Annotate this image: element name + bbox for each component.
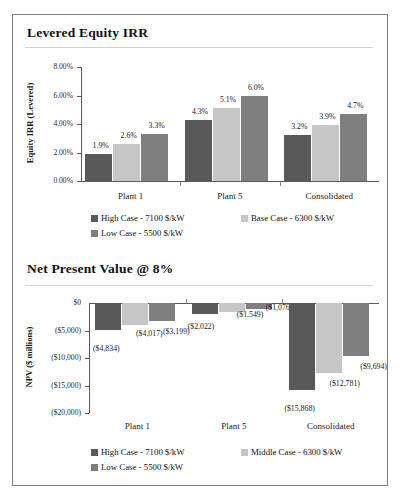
legend-swatch-base-case <box>241 215 248 222</box>
bar-value-label-irr: 3.3% <box>140 121 173 130</box>
legend-label-irr: Base Case - 6300 $/kW <box>251 213 334 223</box>
bar-net-present-value-at-8-percent <box>95 303 121 330</box>
bar-value-label-irr: 4.7% <box>339 101 372 110</box>
clipped-header-text <box>0 0 400 10</box>
legend-label-irr: High Case - 7100 $/kW <box>101 213 185 223</box>
title-divider-npv <box>25 285 373 286</box>
legend-item-npv[interactable]: High Case - 7100 $/kW <box>91 447 185 457</box>
legend-swatch-high-case <box>91 449 98 456</box>
bar-levered-equity-irr <box>113 144 140 181</box>
y-tick-label-npv: ($5,000) <box>13 326 81 335</box>
plot-area-irr: Equity IRR (Levered)0.00%2.00%4.00%6.00%… <box>13 53 387 213</box>
legend-swatch-high-case <box>91 215 98 222</box>
x-tick-mark-npv <box>282 299 283 303</box>
legend-label-irr: Low Case - 5500 $/kW <box>101 228 183 238</box>
legend-label-npv: Middle Case - 6300 $/kW <box>251 447 342 457</box>
chart-panel-net-present-value: Net Present Value @ 8% NPV ($ millions)$… <box>13 255 387 485</box>
bar-net-present-value-at-8-percent <box>289 303 315 390</box>
y-tick-mark-npv <box>85 413 89 414</box>
y-tick-label-irr: 0.00% <box>13 176 73 185</box>
chart-title-npv: Net Present Value @ 8% <box>27 261 173 277</box>
bar-value-label-npv: ($9,694) <box>349 362 399 371</box>
bar-levered-equity-irr <box>312 125 339 181</box>
legend-item-npv[interactable]: Middle Case - 6300 $/kW <box>241 447 342 457</box>
bar-value-label-irr: 6.0% <box>240 83 273 92</box>
chart-legend-npv: High Case - 7100 $/kWMiddle Case - 6300 … <box>13 447 387 487</box>
legend-swatch-middle-case <box>241 449 248 456</box>
y-tick-label-irr: 4.00% <box>13 119 73 128</box>
x-tick-mark-npv <box>186 299 187 303</box>
bar-value-label-npv: ($12,781) <box>320 379 370 388</box>
bar-value-label-npv: ($15,868) <box>275 404 325 413</box>
bar-levered-equity-irr <box>241 96 268 182</box>
bar-value-label-npv: ($2,022) <box>176 322 226 331</box>
bar-value-label-npv: ($4,834) <box>81 344 131 353</box>
x-tick-mark-irr <box>180 182 181 186</box>
category-label-npv: Consolidated <box>282 421 379 431</box>
legend-label-npv: Low Case - 5500 $/kW <box>101 462 183 472</box>
category-label-irr: Plant 1 <box>81 191 180 201</box>
bar-net-present-value-at-8-percent <box>343 303 369 356</box>
bar-levered-equity-irr <box>340 114 367 181</box>
x-axis-line-irr <box>81 181 379 182</box>
figure-frame: Levered Equity IRR Equity IRR (Levered)0… <box>12 14 388 486</box>
y-axis-line-npv <box>89 303 90 413</box>
legend-item-irr[interactable]: Low Case - 5500 $/kW <box>91 228 183 238</box>
chart-panel-levered-equity-irr: Levered Equity IRR Equity IRR (Levered)0… <box>13 15 387 255</box>
bar-levered-equity-irr <box>141 134 168 181</box>
bar-levered-equity-irr <box>185 120 212 181</box>
bar-net-present-value-at-8-percent <box>149 303 175 321</box>
bar-levered-equity-irr <box>284 135 311 181</box>
y-tick-label-npv: ($10,000) <box>13 353 81 362</box>
y-tick-label-irr: 2.00% <box>13 148 73 157</box>
legend-label-npv: High Case - 7100 $/kW <box>101 447 185 457</box>
bar-levered-equity-irr <box>213 108 240 181</box>
y-tick-label-npv: $0 <box>13 298 81 307</box>
legend-item-irr[interactable]: High Case - 7100 $/kW <box>91 213 185 223</box>
bar-net-present-value-at-8-percent <box>122 303 148 325</box>
y-axis-line-irr <box>81 67 82 181</box>
x-tick-mark-irr <box>280 182 281 186</box>
chart-title-irr: Levered Equity IRR <box>27 25 148 41</box>
y-tick-label-npv: ($20,000) <box>13 408 81 417</box>
title-divider-irr <box>25 47 373 48</box>
category-label-irr: Consolidated <box>280 191 379 201</box>
category-label-npv: Plant 1 <box>89 421 186 431</box>
y-tick-label-npv: ($15,000) <box>13 381 81 390</box>
bar-net-present-value-at-8-percent <box>192 303 218 314</box>
legend-item-irr[interactable]: Base Case - 6300 $/kW <box>241 213 334 223</box>
bar-levered-equity-irr <box>85 154 112 181</box>
y-tick-label-irr: 6.00% <box>13 91 73 100</box>
plot-area-npv: NPV ($ millions)$0($5,000)($10,000)($15,… <box>13 291 387 446</box>
category-label-npv: Plant 5 <box>186 421 283 431</box>
legend-item-npv[interactable]: Low Case - 5500 $/kW <box>91 462 183 472</box>
chart-legend-irr: High Case - 7100 $/kWBase Case - 6300 $/… <box>13 213 387 253</box>
category-label-irr: Plant 5 <box>180 191 279 201</box>
bar-net-present-value-at-8-percent <box>316 303 342 373</box>
legend-swatch-low-case <box>91 464 98 471</box>
legend-swatch-low-case <box>91 230 98 237</box>
y-tick-label-irr: 8.00% <box>13 62 73 71</box>
document-page: Levered Equity IRR Equity IRR (Levered)0… <box>0 0 400 498</box>
